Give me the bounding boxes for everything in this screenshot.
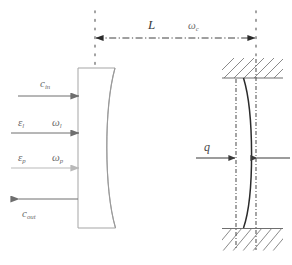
figure-canvas xyxy=(0,0,292,265)
label-omega-c-base: ω xyxy=(188,19,196,31)
label-cavity-length: L xyxy=(148,18,155,31)
label-omega-p-sub: p xyxy=(60,157,63,164)
cavity-optomechanics-figure: cin εl ωl εp ωp cout L ωc q xyxy=(0,0,292,265)
movable-membrane-mirror xyxy=(244,78,252,228)
label-omega-p-base: ω xyxy=(52,151,60,163)
label-omega-p: ωp xyxy=(52,152,63,165)
hatch-block-bottom-fill xyxy=(212,228,292,252)
label-c-in-sub: in xyxy=(45,83,50,90)
label-omega-l-sub: l xyxy=(60,122,62,129)
label-epsilon-l: εl xyxy=(18,117,24,130)
label-epsilon-p: εp xyxy=(18,152,26,165)
label-omega-c: ωc xyxy=(188,20,199,33)
label-omega-l: ωl xyxy=(52,117,62,130)
label-displacement-q-base: q xyxy=(204,140,210,154)
label-displacement-q: q xyxy=(204,141,210,153)
label-c-out-sub: out xyxy=(27,213,36,220)
label-cavity-length-base: L xyxy=(148,17,155,32)
label-omega-l-base: ω xyxy=(52,116,60,128)
label-c-in: cin xyxy=(40,78,50,91)
label-omega-c-sub: c xyxy=(196,25,199,32)
label-c-out: cout xyxy=(22,208,36,221)
label-epsilon-l-sub: l xyxy=(22,122,24,129)
hatch-block-top-fill xyxy=(214,58,292,78)
label-epsilon-p-sub: p xyxy=(22,157,25,164)
